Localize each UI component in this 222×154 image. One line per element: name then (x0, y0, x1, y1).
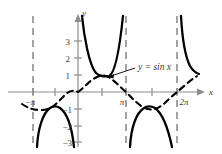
axes-group (8, 14, 205, 147)
sine-curve (22, 76, 197, 110)
ytick-label-1: 1 (66, 71, 71, 81)
csc-branch-right-of-2pi (181, 16, 199, 74)
cosecant-graph: y x 3 2 1 −1 −2 −3 −π π 2π y = sin x (0, 0, 222, 154)
ytick-label-neg1: −1 (62, 105, 72, 115)
sine-curve-annotation-label: y = sin x (137, 62, 172, 72)
ytick-label-neg3: −3 (62, 138, 72, 148)
cosecant-curve-group (37, 16, 199, 147)
ytick-label-3: 3 (66, 37, 71, 47)
csc-branch-zero-to-pi (82, 16, 123, 76)
ytick-label-2: 2 (66, 54, 71, 64)
x-axis-arrowhead (197, 89, 205, 96)
xtick-label-2pi: 2π (179, 97, 189, 107)
sine-curve-group (22, 76, 197, 110)
x-axis-label: x (208, 87, 213, 97)
y-axis-label: y (81, 8, 86, 18)
csc-branch-pi-to-2pi (130, 107, 172, 148)
figure-container: y x 3 2 1 −1 −2 −3 −π π 2π y = sin x (0, 0, 222, 154)
asymptote-group (33, 16, 177, 147)
y-axis-arrowhead (75, 14, 82, 22)
xtick-label-neg-pi: −π (25, 97, 36, 107)
xtick-label-pi: π (120, 97, 125, 107)
ytick-label-neg2: −2 (62, 122, 72, 132)
